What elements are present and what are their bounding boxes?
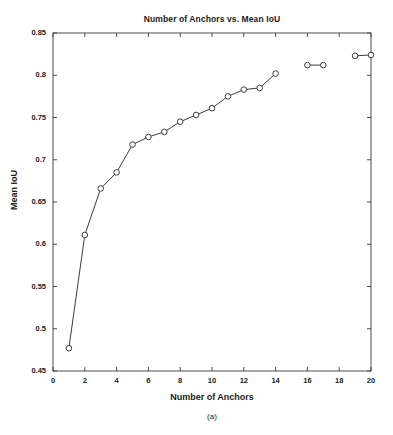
y-tick-label: 0.85 — [12, 28, 46, 37]
data-point — [146, 134, 152, 140]
y-tick-label: 0.7 — [12, 155, 46, 164]
x-tick-label: 8 — [170, 376, 190, 385]
data-point — [352, 53, 358, 59]
data-point — [257, 85, 263, 91]
chart-plot-area — [0, 0, 393, 435]
data-series-markers — [66, 52, 374, 351]
x-tick-label: 10 — [202, 376, 222, 385]
axis-frame — [53, 33, 371, 371]
data-point — [273, 71, 279, 77]
x-tick-label: 16 — [297, 376, 317, 385]
y-tick-label: 0.65 — [12, 197, 46, 206]
data-point — [305, 62, 311, 68]
x-tick-label: 0 — [43, 376, 63, 385]
data-point — [66, 345, 72, 351]
x-tick-label: 2 — [75, 376, 95, 385]
y-tick-label: 0.75 — [12, 113, 46, 122]
data-point — [130, 142, 136, 148]
x-tick-label: 12 — [234, 376, 254, 385]
data-point — [209, 105, 215, 111]
x-tick-label: 14 — [266, 376, 286, 385]
data-point — [368, 52, 374, 58]
data-point — [225, 94, 231, 100]
y-tick-label: 0.5 — [12, 324, 46, 333]
data-point — [162, 129, 168, 135]
y-tick-label: 0.6 — [12, 239, 46, 248]
data-point — [114, 170, 120, 176]
data-point — [177, 119, 183, 125]
y-tick-label: 0.55 — [12, 282, 46, 291]
figure-container: Number of Anchors vs. Mean IoU Mean IoU … — [0, 0, 393, 435]
y-tick-label: 0.45 — [12, 366, 46, 375]
data-point — [82, 232, 88, 238]
x-tick-label: 4 — [107, 376, 127, 385]
data-point — [241, 87, 247, 93]
y-tick-label: 0.8 — [12, 70, 46, 79]
x-tick-label: 18 — [329, 376, 349, 385]
data-point — [193, 112, 199, 118]
x-tick-label: 6 — [138, 376, 158, 385]
data-point — [321, 62, 327, 68]
x-tick-label: 20 — [361, 376, 381, 385]
data-point — [98, 186, 104, 192]
axis-ticks — [53, 33, 371, 371]
data-series-line — [69, 55, 371, 348]
